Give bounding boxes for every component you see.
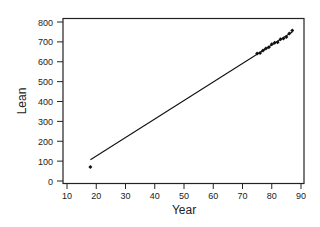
x-tick-label: 40	[150, 191, 160, 201]
x-tick-label: 30	[120, 191, 130, 201]
y-tick-label: 500	[38, 77, 53, 87]
y-tick-label: 300	[38, 117, 53, 127]
data-point	[290, 29, 294, 33]
y-tick-label: 700	[38, 37, 53, 47]
data-point	[88, 165, 92, 169]
x-tick-label: 90	[296, 191, 306, 201]
x-tick-label: 60	[208, 191, 218, 201]
y-tick-label: 0	[48, 177, 53, 187]
x-tick-label: 80	[267, 191, 277, 201]
y-tick-label: 200	[38, 137, 53, 147]
x-tick-label: 10	[62, 191, 72, 201]
y-tick-label: 800	[38, 18, 53, 28]
scatter-chart: 0100200300400500600700800 10203040506070…	[0, 0, 320, 227]
y-axis: 0100200300400500600700800	[38, 18, 63, 187]
x-axis-label: Year	[172, 203, 196, 217]
x-tick-label: 70	[237, 191, 247, 201]
data-points	[88, 29, 294, 169]
y-tick-label: 600	[38, 57, 53, 67]
y-axis-label: Lean	[15, 88, 29, 115]
y-tick-label: 100	[38, 157, 53, 167]
x-tick-label: 50	[179, 191, 189, 201]
x-tick-label: 20	[91, 191, 101, 201]
y-tick-label: 400	[38, 97, 53, 107]
x-axis: 102030405060708090	[62, 184, 306, 202]
